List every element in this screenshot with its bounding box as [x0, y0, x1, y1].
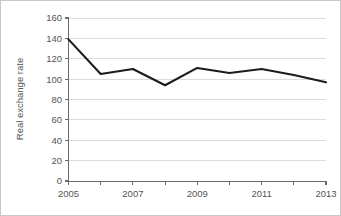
line-chart: 020406080100120140160 200520072009201120…: [1, 1, 341, 216]
y-tick-label: 20: [51, 155, 62, 166]
y-tick-label: 40: [51, 135, 62, 146]
chart-figure: 020406080100120140160 200520072009201120…: [0, 0, 341, 216]
x-tick-label: 2013: [315, 188, 336, 199]
x-tick-label: 2005: [58, 188, 79, 199]
y-axis-title: Real exchange rate: [14, 58, 25, 140]
y-tick-label: 0: [57, 175, 62, 186]
y-tick-label: 100: [46, 74, 62, 85]
x-tick-label: 2009: [187, 188, 208, 199]
y-tick-labels: 020406080100120140160: [46, 12, 62, 186]
x-tick-label: 2011: [251, 188, 271, 199]
y-tick-label: 80: [51, 94, 62, 105]
x-tick-label: 2007: [122, 188, 143, 199]
gridlines: [69, 18, 327, 161]
data-series-line: [69, 39, 327, 85]
y-tick-label: 60: [51, 114, 62, 125]
y-tick-label: 160: [46, 12, 62, 23]
y-tick-label: 140: [46, 33, 62, 44]
y-tick-label: 120: [46, 53, 62, 64]
x-tick-labels: 20052007200920112013: [58, 188, 337, 199]
